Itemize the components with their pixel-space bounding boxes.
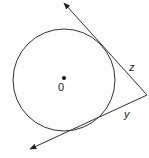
geometry-diagram: 0 z y xyxy=(0,0,149,158)
tangent-line-upper xyxy=(64,3,147,95)
tangent-line-lower xyxy=(30,95,147,149)
label-z: z xyxy=(128,61,135,73)
center-label: 0 xyxy=(58,81,64,93)
center-point xyxy=(62,76,66,80)
label-y: y xyxy=(123,108,131,120)
